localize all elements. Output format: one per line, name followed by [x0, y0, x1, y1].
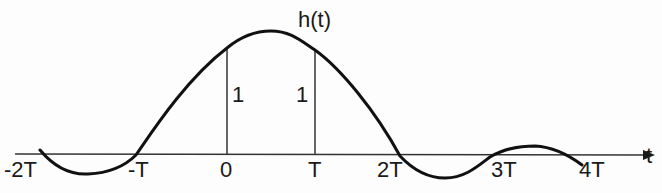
- tick-label-2T: 2T: [377, 159, 403, 181]
- tick-label-4T: 4T: [579, 159, 605, 181]
- sample-value-at-0: 1: [232, 84, 244, 106]
- function-label: h(t): [298, 9, 331, 31]
- h-curve: [40, 31, 582, 178]
- tick-label-0: 0: [220, 159, 232, 181]
- diagram-canvas: [0, 0, 662, 193]
- sample-value-at-T: 1: [296, 84, 308, 106]
- axis-label-t: t: [646, 145, 652, 167]
- tick-label-minus-2T: -2T: [4, 159, 37, 181]
- tick-label-T: T: [308, 159, 321, 181]
- tick-label-minus-T: -T: [128, 159, 149, 181]
- tick-label-3T: 3T: [491, 159, 517, 181]
- impulse-response-diagram: h(t) t -2T -T 0 T 2T 3T 4T 1 1: [0, 0, 662, 193]
- time-axis: [15, 154, 645, 155]
